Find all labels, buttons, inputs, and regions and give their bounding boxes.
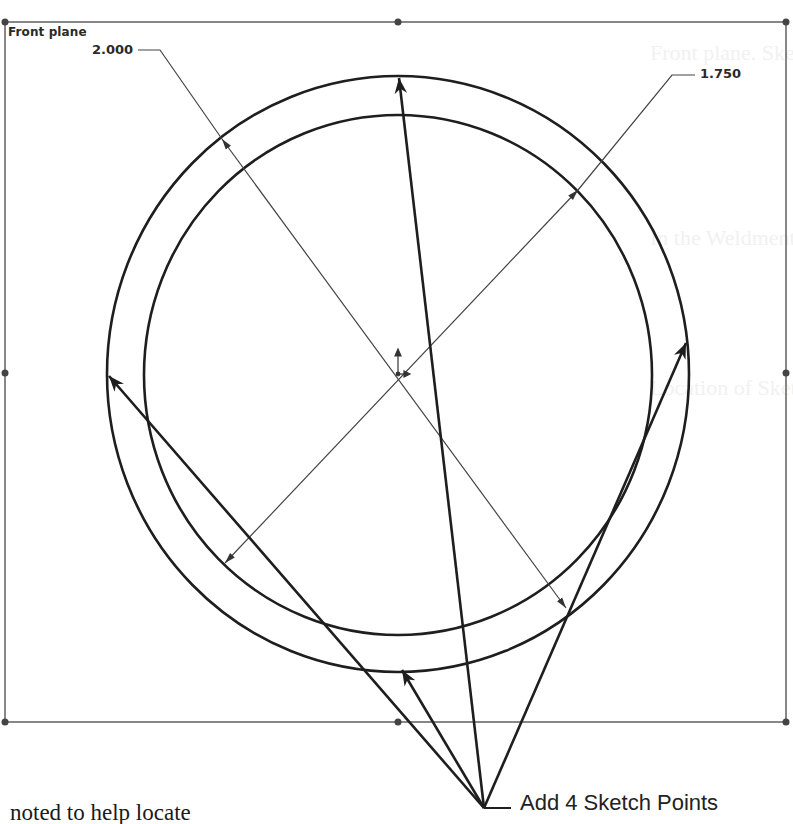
- plane-label: Front plane: [8, 25, 87, 39]
- corner-handle-icon: [783, 19, 790, 26]
- callout-arrow-top: [399, 78, 484, 808]
- outer-diameter-value[interactable]: 2.000: [92, 42, 133, 57]
- midpoint-handle-icon: [395, 719, 402, 726]
- callout-arrow-bottom: [402, 670, 484, 808]
- corner-handle-icon: [783, 719, 790, 726]
- corner-handle-icon: [2, 719, 9, 726]
- midpoint-handle-icon: [783, 370, 790, 377]
- callout-arrow-right: [484, 343, 686, 808]
- callout-arrow-left: [109, 376, 484, 808]
- inner-diameter-value[interactable]: 1.750: [700, 66, 741, 81]
- sketch-canvas[interactable]: [0, 0, 793, 824]
- origin-icon: [395, 349, 410, 377]
- midpoint-handle-icon: [395, 19, 402, 26]
- plane-handle-icons[interactable]: [2, 19, 790, 726]
- callout-arrows: [109, 78, 686, 808]
- front-plane-frame[interactable]: [5, 22, 786, 722]
- outer-diameter-dimension[interactable]: [138, 50, 566, 608]
- document-body-text: noted to help locate: [10, 800, 191, 824]
- sketch-points-callout: Add 4 Sketch Points: [520, 790, 718, 816]
- midpoint-handle-icon: [2, 370, 9, 377]
